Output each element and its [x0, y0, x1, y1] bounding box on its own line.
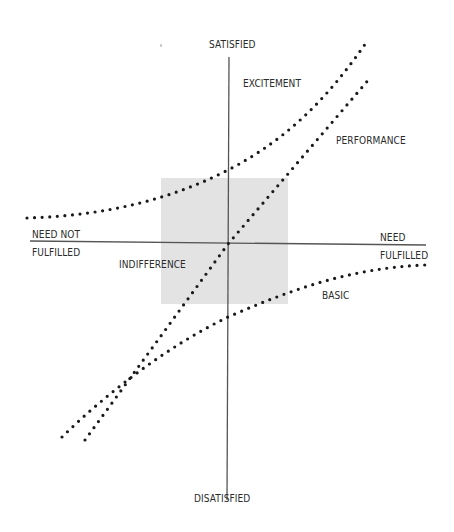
axis-label-disatisfied: DISATISFIED [194, 492, 250, 504]
region-label-excitement: EXCITEMENT [243, 77, 301, 89]
region-label-performance: PERFORMANCE [336, 134, 406, 146]
axis-label-need-fulfilled: FULFILLED [380, 249, 428, 261]
axis-label-need-not-fulfilled: FULFILLED [32, 246, 80, 258]
region-label-basic: BASIC [322, 289, 350, 301]
region-label-indifference: INDIFFERENCE [119, 258, 186, 270]
axis-label-satisfied: SATISFIED [209, 38, 256, 50]
diagram-graphic [0, 0, 454, 532]
axis-label-need-not: NEED NOT [32, 228, 80, 240]
axis-label-need: NEED [380, 231, 405, 243]
kano-diagram: SATISFIED DISATISFIED NEED NOT FULFILLED… [0, 0, 454, 532]
